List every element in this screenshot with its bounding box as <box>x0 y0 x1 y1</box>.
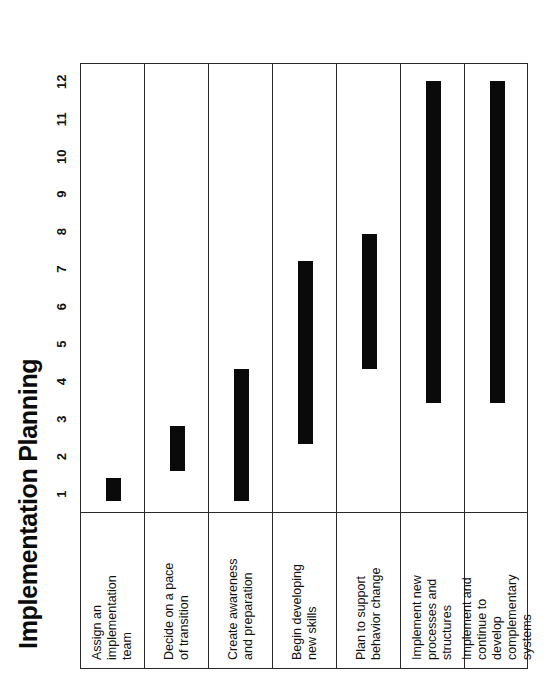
task-label-text: Implement and continue to develop comple… <box>460 575 535 660</box>
gantt-bar[interactable] <box>298 261 313 445</box>
gantt-bar[interactable] <box>234 370 249 501</box>
axis-tick-9: 9 <box>54 191 69 198</box>
task-label-cell: Decide on a pace of transition <box>145 513 209 668</box>
task-label-cell: Assign an implementation team <box>81 513 145 668</box>
axis-tick-4: 4 <box>54 378 69 385</box>
axis-tick-12: 12 <box>54 75 69 89</box>
axis-tick-7: 7 <box>54 266 69 273</box>
axis-tick-8: 8 <box>54 228 69 235</box>
task-label-cell: Plan to support behavior change <box>337 513 401 668</box>
gantt-row <box>465 64 529 512</box>
task-label-cell: Implement and continue to develop comple… <box>465 513 529 668</box>
gantt-row <box>401 64 465 512</box>
gantt-row <box>81 64 145 512</box>
gantt-row <box>145 64 209 512</box>
task-label-column: Assign an implementation teamDecide on a… <box>80 513 528 669</box>
month-axis: 123456789101112 <box>54 63 76 513</box>
gantt-bar[interactable] <box>106 478 121 501</box>
gantt-bar[interactable] <box>362 235 377 370</box>
task-label-text: Create awareness and preparation <box>226 559 256 660</box>
axis-tick-11: 11 <box>54 112 69 126</box>
gantt-chart-figure: Implementation Planning 123456789101112 … <box>0 0 550 691</box>
gantt-row <box>273 64 337 512</box>
axis-tick-1: 1 <box>54 491 69 498</box>
task-label-text: Assign an implementation team <box>90 575 135 660</box>
task-label-text: Begin developing new skills <box>290 564 320 660</box>
task-label-text: Decide on a pace of transition <box>162 563 192 660</box>
task-label-cell: Create awareness and preparation <box>209 513 273 668</box>
task-label-cell: Begin developing new skills <box>273 513 337 668</box>
axis-tick-2: 2 <box>54 453 69 460</box>
chart-title: Implementation Planning <box>14 359 43 649</box>
axis-tick-10: 10 <box>54 150 69 164</box>
gantt-plot-area <box>80 63 528 513</box>
gantt-bar[interactable] <box>490 81 505 404</box>
task-label-text: Plan to support behavior change <box>354 568 384 660</box>
axis-tick-5: 5 <box>54 341 69 348</box>
rotated-figure-stage: Implementation Planning 123456789101112 … <box>0 0 550 691</box>
axis-tick-3: 3 <box>54 416 69 423</box>
gantt-row <box>337 64 401 512</box>
task-label-cell: Implement new processes and structures <box>401 513 465 668</box>
gantt-bar[interactable] <box>170 426 185 471</box>
axis-tick-6: 6 <box>54 303 69 310</box>
gantt-bar[interactable] <box>426 81 441 404</box>
task-label-text: Implement new processes and structures <box>410 575 455 660</box>
gantt-row <box>209 64 273 512</box>
